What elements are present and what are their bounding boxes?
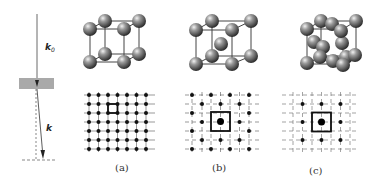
central-spot-c (318, 119, 325, 126)
central-spot-b (217, 118, 224, 125)
atoms-fcc (300, 14, 363, 72)
diffracted-arrowhead-icon (41, 150, 46, 159)
atoms-bcc (189, 14, 258, 71)
diffraction-pattern-b (185, 92, 262, 153)
diffracted-vector-label: k (46, 123, 53, 133)
beam-panel: k 0 k (19, 14, 55, 160)
diffracted-beam (37, 89, 43, 151)
atoms-simple-cubic (83, 14, 146, 69)
diffraction-pattern-a (84, 92, 155, 152)
panel-label-a: (a) (115, 162, 129, 173)
panel-label-b: (b) (212, 162, 226, 173)
diffraction-diagram: k 0 k (0, 0, 376, 188)
diffraction-pattern-c (282, 92, 358, 152)
incident-vector-subscript: 0 (51, 46, 55, 53)
panel-label-c: (c) (309, 165, 323, 176)
crystal-simple-cubic (90, 21, 139, 62)
